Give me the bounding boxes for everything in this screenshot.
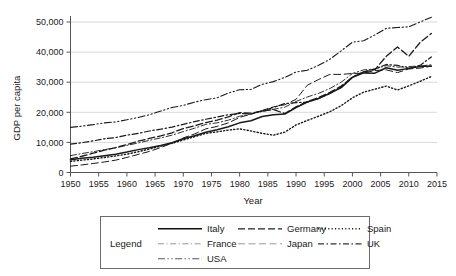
x-tick-label: 1985 [258,179,278,189]
x-tick-label: 1965 [145,179,165,189]
x-tick-label: 2010 [399,179,419,189]
x-tick-label: 2015 [427,179,447,189]
x-tick-label: 2000 [342,179,362,189]
y-axis-title: GDP per capita [11,75,22,140]
legend-label-usa[interactable]: USA [207,253,227,264]
series-line-japan [71,66,432,166]
gdp-per-capita-line-chart: 010,00020,00030,00040,00050,000 19501955… [0,0,456,276]
legend-label-uk[interactable]: UK [367,238,381,249]
x-tick-label: 1995 [314,179,334,189]
y-tick-label: 10,000 [36,138,64,148]
x-axis-title: Year [243,195,262,206]
gridlines-group [71,22,438,172]
x-tick-label: 1960 [117,179,137,189]
y-tick-labels-group: 010,00020,00030,00040,00050,000 [36,17,64,177]
legend-label-spain[interactable]: Spain [367,223,391,234]
legend-label-italy[interactable]: Italy [207,223,225,234]
legend-label-germany[interactable]: Germany [287,223,326,234]
legend-title: Legend [110,238,142,249]
x-tick-label: 2005 [371,179,391,189]
x-tick-label: 1950 [60,179,80,189]
x-tick-label: 1990 [286,179,306,189]
x-tick-label: 1975 [201,179,221,189]
legend-label-france[interactable]: France [207,238,237,249]
x-tick-labels-group: 1950195519601965197019751980198519901995… [60,179,447,189]
chart-figure: 010,00020,00030,00040,00050,000 19501955… [0,0,456,276]
y-tick-label: 20,000 [36,108,64,118]
x-tick-label: 1955 [89,179,109,189]
y-tick-label: 30,000 [36,77,64,87]
series-line-france [71,65,432,156]
legend-entries-group[interactable]: ItalyGermanySpainFranceJapanUKUSA [158,223,391,264]
legend-label-japan[interactable]: Japan [287,238,313,249]
y-tick-label: 0 [58,168,63,178]
y-tick-label: 50,000 [36,17,64,27]
y-tick-label: 40,000 [36,47,64,57]
x-tick-label: 1980 [230,179,250,189]
data-series-group [71,17,432,166]
x-tick-label: 1970 [173,179,193,189]
